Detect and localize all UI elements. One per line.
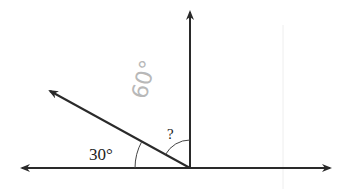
angle-diagram: 30° ? 60° <box>0 0 354 189</box>
given-angle-label: 30° <box>89 145 113 164</box>
angle-arc-unknown <box>166 140 191 155</box>
handwritten-annotation: 60° <box>127 57 161 101</box>
angle-arc-given <box>135 142 142 169</box>
unknown-angle-label: ? <box>167 126 174 142</box>
